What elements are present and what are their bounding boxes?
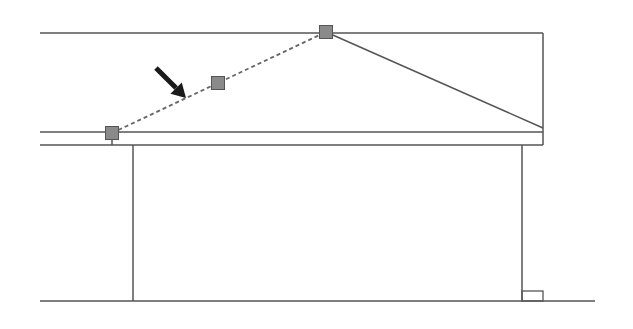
diagram-canvas: [0, 0, 633, 329]
handle-start[interactable]: [106, 127, 119, 140]
arrow-shaft: [156, 68, 176, 88]
base-step-rect: [522, 291, 543, 301]
roof-slope-right: [326, 32, 543, 128]
drawing-rects: [522, 291, 543, 301]
edit-handles[interactable]: [106, 26, 333, 140]
handle-peak[interactable]: [320, 26, 333, 39]
pointer-arrow-icon: [156, 68, 186, 98]
handle-mid[interactable]: [212, 77, 225, 90]
drawing-lines: [40, 32, 595, 301]
